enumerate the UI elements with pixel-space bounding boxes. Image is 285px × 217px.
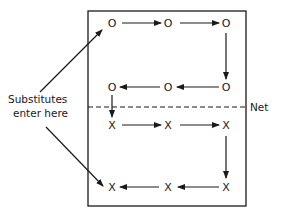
substitute-entry-arrow-top	[40, 30, 102, 92]
node-o: O	[164, 17, 173, 30]
net-label: Net	[250, 101, 268, 113]
node-x: X	[164, 119, 172, 132]
rotation-diagram: Net O O O O O O X X X X X X Substitutes …	[0, 0, 285, 217]
node-x: X	[222, 181, 230, 194]
node-o: O	[222, 17, 231, 30]
node-x: X	[108, 181, 116, 194]
node-x: X	[164, 181, 172, 194]
node-o: O	[222, 81, 231, 94]
substitutes-label-line1: Substitutes	[8, 93, 67, 105]
node-x: X	[108, 119, 116, 132]
node-o: O	[108, 81, 117, 94]
node-x: X	[222, 119, 230, 132]
substitutes-label-line2: enter here	[13, 107, 68, 119]
substitute-entry-arrow-bottom	[46, 127, 103, 186]
node-o: O	[164, 81, 173, 94]
node-o: O	[108, 17, 117, 30]
